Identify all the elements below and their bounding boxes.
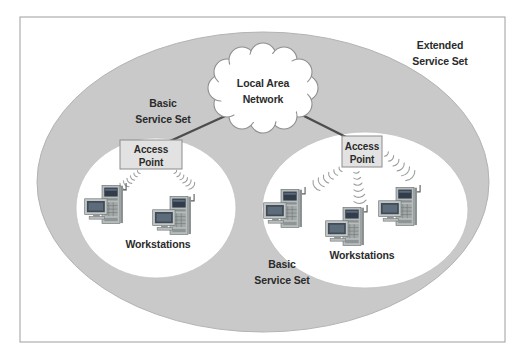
lan-label-line1: Local Area <box>237 77 290 89</box>
access-point-right: Access Point <box>342 136 382 167</box>
extended-service-set-label-line1: Extended <box>417 39 463 51</box>
workstations-right-label: Workstations <box>329 249 394 261</box>
basic-service-set-right-label-line1: Basic <box>268 258 296 270</box>
basic-service-set-left-label-line1: Basic <box>149 97 177 109</box>
basic-service-set-left-label-line2: Service Set <box>135 113 191 125</box>
basic-service-set-right-label-line2: Service Set <box>254 274 310 286</box>
access-point-left-label-line2: Point <box>139 157 164 168</box>
extended-service-set-label-line2: Service Set <box>412 55 468 67</box>
access-point-right-label-line2: Point <box>350 154 375 165</box>
access-point-left-label-line1: Access <box>134 144 169 155</box>
access-point-right-label-line1: Access <box>345 141 380 152</box>
diagram-canvas: Extended Service Set Basic Service Set B… <box>0 0 523 359</box>
access-point-left: Access Point <box>120 140 182 169</box>
lan-label-line2: Network <box>243 93 284 105</box>
network-diagram: Extended Service Set Basic Service Set B… <box>0 0 523 359</box>
workstations-left-label: Workstations <box>125 238 190 250</box>
